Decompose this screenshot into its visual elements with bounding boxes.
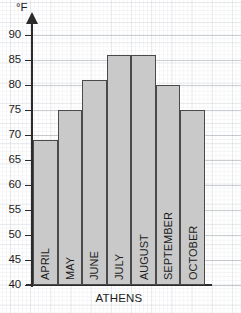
y-axis-tick-label: 90	[0, 28, 21, 40]
bar-category-label: OCTOBER	[186, 226, 198, 280]
bar-category-label: APRIL	[39, 248, 51, 280]
bar-category-label: SEPTEMBER	[162, 212, 174, 280]
y-axis-tick-label: 45	[0, 253, 21, 265]
y-axis-tick	[25, 235, 32, 236]
y-axis-tick-label: 70	[0, 128, 21, 140]
y-axis-tick-label: 75	[0, 103, 21, 115]
y-axis-tick	[25, 60, 32, 61]
bar: AUGUST	[131, 55, 156, 285]
y-axis-tick	[25, 135, 32, 136]
y-axis-tick-label: 65	[0, 153, 21, 165]
bar: APRIL	[33, 140, 58, 285]
bar-chart-figure: °F 9085807570656055504540 APRILMAYJUNEJU…	[0, 0, 241, 313]
y-axis-tick-label: 80	[0, 78, 21, 90]
y-axis-tick	[25, 110, 32, 111]
y-axis-tick	[25, 35, 32, 36]
y-axis-tick-label: 40	[0, 278, 21, 290]
bar: OCTOBER	[180, 110, 205, 285]
y-axis-tick	[25, 210, 32, 211]
bar-category-label: AUGUST	[137, 234, 149, 280]
bar: MAY	[58, 110, 83, 285]
y-axis-tick	[25, 260, 32, 261]
y-axis-tick	[25, 160, 32, 161]
x-axis-title: ATHENS	[33, 292, 205, 304]
y-axis-tick	[25, 185, 32, 186]
bar-category-label: JUNE	[88, 251, 100, 280]
y-axis-tick-label: 85	[0, 53, 21, 65]
bar-category-label: MAY	[63, 257, 75, 280]
y-axis-tick-label: 55	[0, 203, 21, 215]
y-axis-tick-label: 50	[0, 228, 21, 240]
bar-category-label: JULY	[112, 254, 124, 280]
bar: JUNE	[82, 80, 107, 285]
bar: JULY	[107, 55, 132, 285]
y-axis-ticks: 9085807570656055504540	[0, 0, 33, 313]
plot-area: APRILMAYJUNEJULYAUGUSTSEPTEMBEROCTOBER	[33, 35, 205, 285]
bar: SEPTEMBER	[156, 85, 181, 285]
y-axis-tick	[25, 85, 32, 86]
y-axis-tick-label: 60	[0, 178, 21, 190]
